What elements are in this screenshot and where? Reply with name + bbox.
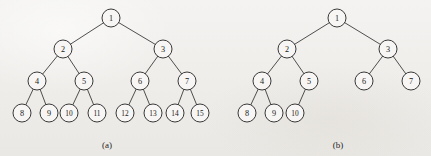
tree-node: 3	[379, 40, 397, 58]
panel-b-nodes: 12345678910	[238, 9, 420, 122]
panel-b-edges	[251, 23, 406, 105]
node-label: 6	[138, 77, 142, 86]
tree-edge	[190, 89, 196, 104]
tree-node: 9	[265, 104, 283, 122]
node-label: 7	[185, 77, 189, 86]
tree-node: 9	[40, 104, 58, 122]
tree-edge	[119, 23, 156, 45]
tree-node: 10	[60, 104, 78, 122]
tree-node: 14	[166, 104, 184, 122]
node-label: 3	[386, 45, 390, 54]
tree-edge	[168, 56, 181, 74]
tree-edge	[129, 89, 136, 105]
panel-a-caption: (a)	[102, 140, 112, 150]
node-label: 7	[409, 77, 413, 86]
tree-node: 1	[328, 9, 346, 27]
captions-layer: (a)(b)	[102, 140, 343, 150]
binary-tree-figure: 12345678910111213141512345678910 (a)(b)	[0, 0, 431, 156]
tree-edge	[369, 56, 382, 74]
node-label: 14	[171, 109, 179, 118]
node-label: 8	[20, 109, 24, 118]
tree-node: 10	[286, 104, 304, 122]
tree-node: 15	[191, 104, 209, 122]
node-label: 3	[161, 45, 165, 54]
tree-edge	[251, 89, 258, 105]
tree-edge	[295, 23, 330, 45]
tree-node: 2	[54, 40, 72, 58]
node-label: 5	[82, 77, 86, 86]
node-label: 6	[362, 77, 366, 86]
tree-edge	[40, 89, 46, 104]
tree-node: 3	[154, 40, 172, 58]
node-label: 12	[121, 109, 129, 118]
node-label: 10	[291, 109, 299, 118]
tree-node: 7	[178, 72, 196, 90]
tree-node: 7	[402, 72, 420, 90]
tree-edge	[299, 89, 306, 105]
tree-node: 11	[88, 104, 106, 122]
tree-edge	[43, 56, 58, 74]
tree-edge	[265, 89, 271, 104]
tree-node: 1	[102, 9, 120, 27]
tree-node: 6	[355, 72, 373, 90]
node-label: 11	[93, 109, 100, 118]
tree-node: 4	[28, 72, 46, 90]
node-label: 10	[65, 109, 73, 118]
tree-edge	[71, 23, 104, 44]
tree-node: 12	[116, 104, 134, 122]
tree-edge	[268, 56, 282, 74]
tree-node: 2	[278, 40, 296, 58]
node-label: 9	[272, 109, 276, 118]
tree-node: 4	[253, 72, 271, 90]
tree-edge	[393, 56, 406, 73]
node-label: 1	[109, 14, 113, 23]
tree-edge	[73, 89, 80, 105]
edges-layer	[26, 23, 406, 105]
tree-edge	[345, 23, 381, 45]
tree-edge	[87, 89, 93, 104]
panel-b-caption: (b)	[333, 140, 344, 150]
node-label: 4	[260, 77, 264, 86]
tree-node: 13	[144, 104, 162, 122]
tree-node: 8	[238, 104, 256, 122]
tree-node: 5	[75, 72, 93, 90]
node-label: 9	[47, 109, 51, 118]
tree-edge	[68, 57, 79, 74]
tree-edge	[145, 56, 158, 73]
node-label: 15	[196, 109, 204, 118]
node-label: 13	[149, 109, 157, 118]
node-label: 2	[285, 45, 289, 54]
panel-a-edges	[26, 23, 197, 105]
node-label: 1	[335, 14, 339, 23]
tree-edge	[292, 56, 304, 73]
node-label: 2	[61, 45, 65, 54]
tree-node: 8	[13, 104, 31, 122]
tree-edge	[26, 89, 33, 105]
tree-node: 6	[131, 72, 149, 90]
tree-edge	[143, 89, 149, 104]
node-label: 8	[245, 109, 249, 118]
panel-a-nodes: 123456789101112131415	[13, 9, 209, 122]
node-label: 4	[35, 77, 39, 86]
node-label: 5	[307, 77, 311, 86]
tree-node: 5	[300, 72, 318, 90]
tree-edge	[178, 89, 184, 104]
